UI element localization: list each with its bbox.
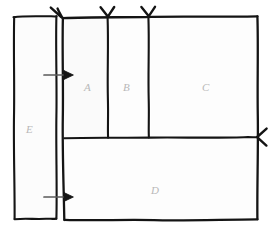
region-label-E: E bbox=[26, 124, 33, 135]
region-E-top-edge bbox=[14, 16, 57, 17]
divider-horizontal bbox=[64, 137, 257, 138]
region-E-bottom-edge bbox=[15, 219, 57, 220]
region-E-left-edge bbox=[14, 17, 15, 219]
divider-a-b bbox=[108, 18, 109, 138]
region-B-fill bbox=[109, 17, 148, 137]
region-E-right-edge bbox=[56, 16, 57, 219]
region-label-C: C bbox=[202, 82, 210, 93]
region-fills bbox=[14, 16, 258, 220]
divider-b-c bbox=[148, 17, 149, 137]
region-label-A: A bbox=[84, 82, 91, 93]
region-label-D: D bbox=[151, 185, 159, 196]
sketch-drawing bbox=[0, 0, 270, 229]
top-arrow-middle bbox=[101, 7, 115, 16]
region-label-B: B bbox=[123, 82, 130, 93]
region-E-fill bbox=[14, 16, 57, 219]
diagram-canvas: A B C D E bbox=[0, 0, 270, 229]
region-C-fill bbox=[150, 16, 258, 137]
region-D-fill bbox=[64, 139, 258, 220]
top-arrow-right bbox=[141, 7, 155, 16]
main-box-bottom-edge bbox=[65, 219, 258, 220]
main-box-right-edge bbox=[257, 16, 258, 219]
